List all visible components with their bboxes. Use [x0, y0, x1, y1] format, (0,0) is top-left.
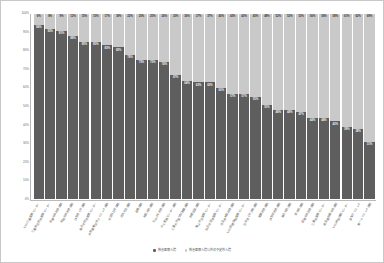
bar-segment-upper[interactable]: 9%: [56, 14, 66, 31]
bar-segment-lower[interactable]: 85%: [91, 42, 101, 199]
bar-segment-upper[interactable]: 62%: [353, 14, 363, 129]
bar-column[interactable]: 40%60%: [216, 14, 226, 199]
bar-segment-upper[interactable]: 43%: [227, 14, 237, 94]
bar-column[interactable]: 12%88%: [68, 14, 78, 199]
bar-column[interactable]: 8%92%: [45, 14, 55, 199]
bar-column[interactable]: 52%48%: [273, 14, 283, 199]
bar-segment-upper[interactable]: 56%: [307, 14, 317, 118]
bar-segment-lower[interactable]: 57%: [227, 94, 237, 199]
bar-column[interactable]: 43%57%: [227, 14, 237, 199]
bar-column[interactable]: 43%57%: [239, 14, 249, 199]
bar-segment-lower[interactable]: 67%: [170, 75, 180, 199]
bar-segment-lower[interactable]: 55%: [250, 97, 260, 199]
bar-column[interactable]: 36%64%: [182, 14, 192, 199]
bar-column[interactable]: 37%63%: [193, 14, 203, 199]
bar-column[interactable]: 69%31%: [364, 14, 374, 199]
bar-segment-label: 6%: [37, 15, 41, 18]
bar-segment-lower[interactable]: 94%: [34, 25, 44, 199]
bar-column[interactable]: 15%85%: [91, 14, 101, 199]
bar-segment-upper[interactable]: 52%: [273, 14, 283, 110]
bar-segment-upper[interactable]: 12%: [68, 14, 78, 36]
bar-column[interactable]: 62%38%: [353, 14, 363, 199]
bar-segment-lower[interactable]: 48%: [284, 110, 294, 199]
bar-segment-lower[interactable]: 91%: [56, 31, 66, 199]
bar-segment-lower[interactable]: 83%: [102, 45, 112, 199]
bar-segment-lower[interactable]: 44%: [319, 118, 329, 199]
bar-segment-upper[interactable]: 25%: [148, 14, 158, 60]
bar-column[interactable]: 25%75%: [136, 14, 146, 199]
bar-segment-lower[interactable]: 57%: [239, 94, 249, 199]
legend-item[interactable]: 救急医療入院: [153, 249, 175, 252]
bar-segment-lower[interactable]: 75%: [136, 60, 146, 199]
bar-column[interactable]: 25%75%: [148, 14, 158, 199]
bar-segment-upper[interactable]: 15%: [79, 14, 89, 42]
bar-segment-upper[interactable]: 61%: [342, 14, 352, 127]
bar-segment-upper[interactable]: 45%: [250, 14, 260, 97]
bar-segment-label: 12%: [70, 15, 75, 18]
bar-segment-upper[interactable]: 37%: [193, 14, 203, 82]
bar-segment-upper[interactable]: 25%: [136, 14, 146, 60]
bar-segment-lower[interactable]: 44%: [307, 118, 317, 199]
bar-column[interactable]: 6%94%: [34, 14, 44, 199]
bar-segment-lower[interactable]: 39%: [342, 127, 352, 199]
bar-column[interactable]: 15%85%: [79, 14, 89, 199]
bar-column[interactable]: 9%91%: [56, 14, 66, 199]
bar-segment-lower[interactable]: 78%: [125, 55, 135, 199]
bar-segment-label: 39%: [344, 128, 349, 131]
bar-column[interactable]: 56%44%: [319, 14, 329, 199]
bar-segment-lower[interactable]: 82%: [113, 47, 123, 199]
bar-column[interactable]: 52%48%: [284, 14, 294, 199]
bar-segment-lower[interactable]: 42%: [330, 121, 340, 199]
bar-segment-upper[interactable]: 40%: [216, 14, 226, 88]
bar-segment-lower[interactable]: 75%: [148, 60, 158, 199]
bar-segment-lower[interactable]: 51%: [262, 105, 272, 199]
bar-column[interactable]: 17%83%: [102, 14, 112, 199]
bar-segment-lower[interactable]: 48%: [273, 110, 283, 199]
bar-segment-lower[interactable]: 92%: [45, 29, 55, 199]
bar-segment-upper[interactable]: 8%: [45, 14, 55, 29]
bar-segment-upper[interactable]: 53%: [296, 14, 306, 112]
bar-segment-upper[interactable]: 56%: [319, 14, 329, 118]
bar-segment-upper[interactable]: 36%: [182, 14, 192, 81]
x-axis-label-cell: 津市民病院: [296, 202, 306, 244]
bar-segment-upper[interactable]: 18%: [113, 14, 123, 47]
bar-segment-label: 26%: [162, 15, 167, 18]
bar-segment-lower[interactable]: 47%: [296, 112, 306, 199]
bar-column[interactable]: 26%74%: [159, 14, 169, 199]
bar-segment-lower[interactable]: 85%: [79, 42, 89, 199]
bar-segment-upper[interactable]: 43%: [239, 14, 249, 94]
bar-segment-lower[interactable]: 38%: [353, 129, 363, 199]
bar-segment-lower[interactable]: 88%: [68, 36, 78, 199]
bar-column[interactable]: 56%44%: [307, 14, 317, 199]
bar-segment-upper[interactable]: 58%: [330, 14, 340, 121]
bar-segment-upper[interactable]: 15%: [91, 14, 101, 42]
bar-segment-upper[interactable]: 17%: [102, 14, 112, 45]
bar-column[interactable]: 49%51%: [262, 14, 272, 199]
bar-segment-lower[interactable]: 60%: [216, 88, 226, 199]
bar-column[interactable]: 58%42%: [330, 14, 340, 199]
bar-segment-lower[interactable]: 64%: [182, 81, 192, 199]
bar-segment-upper[interactable]: 37%: [205, 14, 215, 82]
bar-segment-upper[interactable]: 26%: [159, 14, 169, 62]
legend-item[interactable]: 救急医療入院以外の予定外入院: [185, 249, 231, 252]
bar-segment-label: 49%: [264, 15, 269, 18]
bar-segment-lower[interactable]: 74%: [159, 62, 169, 199]
bar-segment-lower[interactable]: 63%: [205, 82, 215, 199]
bar-segment-upper[interactable]: 6%: [34, 14, 44, 25]
bar-column[interactable]: 33%67%: [170, 14, 180, 199]
bar-segment-upper[interactable]: 52%: [284, 14, 294, 110]
y-axis-tick: 70%: [23, 68, 29, 71]
bar-column[interactable]: 61%39%: [342, 14, 352, 199]
bar-segment-lower[interactable]: 63%: [193, 82, 203, 199]
bar-segment-upper[interactable]: 22%: [125, 14, 135, 55]
bar-column[interactable]: 22%78%: [125, 14, 135, 199]
bar-column[interactable]: 53%47%: [296, 14, 306, 199]
bar-column[interactable]: 37%63%: [205, 14, 215, 199]
bar-segment-lower[interactable]: 31%: [364, 142, 374, 199]
bar-segment-label: 15%: [93, 15, 98, 18]
bar-segment-upper[interactable]: 69%: [364, 14, 374, 142]
bar-segment-upper[interactable]: 49%: [262, 14, 272, 105]
bar-column[interactable]: 45%55%: [250, 14, 260, 199]
bar-segment-upper[interactable]: 33%: [170, 14, 180, 75]
bar-column[interactable]: 18%82%: [113, 14, 123, 199]
